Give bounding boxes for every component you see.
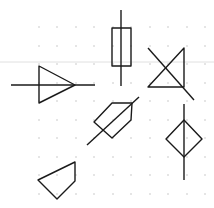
grid-dot [186,26,187,27]
grid-dot [112,156,113,157]
grid-dot [204,45,205,46]
grid-dot [75,100,76,101]
grid-dot [75,193,76,194]
grid-dot [204,63,205,64]
grid-dot [130,193,131,194]
grid-dot [186,100,187,101]
grid-dot [112,193,113,194]
grid-dot [93,193,94,194]
grid-dot [75,63,76,64]
grid-dot [56,174,57,175]
grid-dot [167,100,168,101]
diagram-svg [0,0,214,208]
grid-dot [167,193,168,194]
grid-dot [130,174,131,175]
grid-dot [93,63,94,64]
grid-dot [167,174,168,175]
crossed-triangle-symbol [148,48,194,100]
grid-dot [130,156,131,157]
grid-dot [75,119,76,120]
grid-dot [186,119,187,120]
grid-dot [167,82,168,83]
grid-dot [56,193,57,194]
grid-dot [38,156,39,157]
grid-dot [167,45,168,46]
grid-dot [149,193,150,194]
grid-dot [38,174,39,175]
grid-dot [149,119,150,120]
grid-dot [56,100,57,101]
grid-dot [38,193,39,194]
grid-dot [38,45,39,46]
grid-dot [204,156,205,157]
grid-dot [204,119,205,120]
grid-dot [56,45,57,46]
diagram-canvas [0,0,214,208]
grid-dot [186,137,187,138]
grid-dot [93,100,94,101]
grid-dot [56,137,57,138]
grid-dot [149,137,150,138]
resistor-symbol [112,10,131,86]
grid-dot [38,137,39,138]
grid-dot [204,137,205,138]
crossed-triangle-symbol-lead [148,48,194,100]
shapes-layer [11,10,202,199]
grid-dot [93,82,94,83]
grid-dot [75,156,76,157]
grid-dot [93,45,94,46]
grid-dot [186,82,187,83]
grid-dot [75,82,76,83]
grid-dot [204,174,205,175]
grid-dot [149,45,150,46]
diamond-symbol [166,104,202,180]
grid-dot [56,156,57,157]
grid-dot [75,26,76,27]
grid-dot [167,156,168,157]
grid-dot [204,82,205,83]
grid-dot [93,156,94,157]
grid-dot [204,193,205,194]
grid-dot [56,26,57,27]
grid-dot [186,174,187,175]
grid-dot [204,100,205,101]
grid-dot [167,26,168,27]
grid-dot [167,119,168,120]
grid-dot [186,45,187,46]
grid-dot [149,100,150,101]
grid-dot [93,174,94,175]
quadrilateral-shape-outline [38,162,75,199]
grid-dot [38,26,39,27]
quadrilateral-shape [38,162,75,199]
grid-dot [75,45,76,46]
grid-dot [93,26,94,27]
grid-dot [56,63,57,64]
grid-dot [56,119,57,120]
grid-dot [112,82,113,83]
buffer-triangle-symbol [11,66,95,103]
grid-dot [186,63,187,64]
grid-dot [149,26,150,27]
grid-dot [186,156,187,157]
grid-dot [149,156,150,157]
grid-dot [56,82,57,83]
grid-dot [204,26,205,27]
grid-dot [130,82,131,83]
grid-dot [149,174,150,175]
grid-dot [130,100,131,101]
grid-dot [112,174,113,175]
grid-dot [38,119,39,120]
grid-dot [186,193,187,194]
grid-dot [75,137,76,138]
grid-dot [38,63,39,64]
grid-dot [112,100,113,101]
grid-dot [130,137,131,138]
grid-dot [149,63,150,64]
